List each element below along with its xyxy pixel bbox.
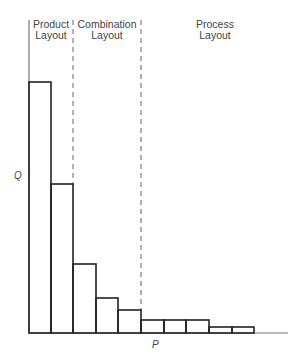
bar-5 (118, 310, 141, 333)
bar-4 (96, 298, 118, 333)
x-axis-label: P (152, 339, 159, 350)
y-axis-label: Q (14, 170, 22, 181)
region-label-combination: Combination Layout (75, 19, 139, 41)
bar-1 (29, 82, 51, 333)
bar-9 (209, 327, 232, 333)
region-label-product: Product Layout (31, 19, 71, 41)
bar-6 (141, 320, 164, 333)
bar-7 (164, 320, 186, 333)
pq-chart (0, 0, 303, 361)
bar-8 (186, 320, 209, 333)
bar-2 (51, 184, 73, 333)
bar-3 (73, 264, 96, 333)
region-label-process: Process Layout (180, 19, 250, 41)
bar-10 (232, 327, 254, 333)
